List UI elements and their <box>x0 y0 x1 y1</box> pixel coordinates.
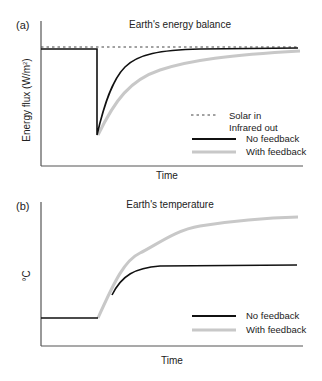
panel-b-title: Earth's temperature <box>126 199 214 210</box>
with-feedback-curve-b <box>98 217 298 318</box>
panel-a-y-label: Energy flux (W/m2) <box>21 58 32 141</box>
panel-a: (a) Earth's energy balance Energy flux (… <box>16 19 306 181</box>
panel-a-legend: Solar in Infrared out No feedback With f… <box>191 110 306 157</box>
panel-a-x-label: Time <box>156 170 178 181</box>
legend-infrared-out: Infrared out <box>229 122 278 133</box>
legend-no-feedback: No feedback <box>246 133 300 144</box>
panel-b-label: (b) <box>16 200 29 212</box>
figure: (a) Earth's energy balance Energy flux (… <box>0 0 322 381</box>
panel-b-y-label: °C <box>21 270 32 281</box>
legend-b-with-feedback: With feedback <box>246 324 306 335</box>
panel-b-x-label: Time <box>161 355 183 366</box>
legend-b-no-feedback: No feedback <box>246 310 300 321</box>
panel-a-label: (a) <box>16 19 29 31</box>
panel-a-title: Earth's energy balance <box>129 19 231 30</box>
panel-b-legend: No feedback With feedback <box>192 310 306 335</box>
legend-solar-in: Solar in <box>229 110 261 121</box>
panel-b: (b) Earth's temperature °C Time No feedb… <box>16 199 306 366</box>
legend-with-feedback: With feedback <box>246 146 306 157</box>
